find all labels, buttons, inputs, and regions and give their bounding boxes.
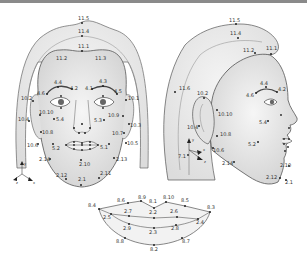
- frontal-label-10-3: 10.3: [130, 122, 141, 128]
- profile-label-7-1: 7.1: [178, 153, 186, 159]
- frontal-label-10-6: 10.6: [27, 142, 38, 148]
- frontal-label-10-4: 10.4: [18, 116, 29, 122]
- mouth-label-2-2: 2.2: [149, 209, 157, 215]
- svg-text:z: z: [204, 160, 206, 164]
- profile-label-11-4: 11.4: [230, 30, 241, 36]
- mouth-label-2-9: 2.9: [123, 225, 131, 231]
- profile-label-11-5: 11.5: [229, 17, 240, 23]
- frontal-label-11-1: 11.1: [78, 43, 89, 49]
- frontal-right-eye: [94, 98, 114, 107]
- mouth-label-8-5: 8.5: [181, 197, 189, 203]
- frontal-label-10-2: 10.2: [21, 95, 32, 101]
- svg-text:x: x: [203, 148, 205, 152]
- frontal-label-2-10: 2.10: [79, 161, 90, 167]
- frontal-label-2-13: 2.13: [116, 156, 127, 162]
- frontal-label-10-8: 10.8: [42, 129, 53, 135]
- profile-label-2-14: 2.14: [222, 160, 233, 166]
- profile-view: 11.5 11.4 11.2 11.1 11.6 10.2 10.10 4.4 …: [164, 17, 297, 185]
- frontal-label-10-10: 10.10: [39, 109, 53, 115]
- mouth-detail: 8.4 8.6 8.9 8.1 8.10 8.5 8.3 2.7 2.2 2.6…: [88, 194, 215, 252]
- profile-label-10-10: 10.10: [218, 111, 232, 117]
- svg-text:z: z: [16, 181, 18, 185]
- profile-label-2-10: 2.10: [280, 162, 291, 168]
- profile-label-5-2: 5.2: [248, 141, 256, 147]
- profile-label-5-4: 5.4: [259, 119, 267, 125]
- frontal-label-4-6: 4.6: [37, 90, 45, 96]
- frontal-label-10-7: 10.7: [112, 130, 123, 136]
- frontal-label-10-5: 10.5: [127, 140, 138, 146]
- frontal-label-5-3: 5.3: [94, 117, 102, 123]
- svg-text:x: x: [33, 181, 35, 185]
- profile-label-11-6: 11.6: [179, 85, 190, 91]
- svg-text:y: y: [192, 138, 194, 142]
- frontal-label-4-1: 4.1: [85, 85, 93, 91]
- frontal-label-4-5: 4.5: [114, 88, 122, 94]
- frontal-label-2-14: 2.14: [39, 156, 50, 162]
- profile-label-10-2: 10.2: [197, 90, 208, 96]
- mouth-label-8-6: 8.6: [117, 197, 125, 203]
- mouth-label-8-4: 8.4: [88, 202, 96, 208]
- mouth-label-2-8: 2.8: [171, 225, 179, 231]
- frontal-label-5-1: 5.1: [100, 144, 108, 150]
- profile-label-10-6: 10.6: [213, 147, 224, 153]
- svg-text:y: y: [24, 162, 26, 166]
- mouth-label-2-3: 2.3: [149, 229, 157, 235]
- mouth-label-2-7: 2.7: [124, 208, 132, 214]
- frontal-label-5-4: 5.4: [56, 116, 64, 122]
- facial-feature-points-diagram: 11.5 11.4 11.1 11.2 11.3 4.4 4.2 4.1 4.3…: [0, 0, 307, 261]
- profile-label-4-2: 4.2: [278, 86, 286, 92]
- mouth-label-8-1: 8.1: [149, 198, 157, 204]
- profile-label-10-8: 10.8: [220, 131, 231, 137]
- mouth-label-8-2: 8.2: [150, 246, 158, 252]
- profile-label-10-4: 10.4: [187, 124, 198, 130]
- frontal-view: 11.5 11.4 11.1 11.2 11.3 4.4 4.2 4.1 4.3…: [13, 15, 148, 187]
- mouth-label-2-4: 2.4: [196, 219, 204, 225]
- frontal-label-11-5: 11.5: [78, 15, 89, 21]
- mouth-label-8-8: 8.8: [116, 238, 124, 244]
- frontal-label-4-4: 4.4: [54, 79, 62, 85]
- mouth-label-8-7: 8.7: [182, 238, 190, 244]
- frontal-label-5-2: 5.2: [52, 145, 60, 151]
- frontal-label-11-3: 11.3: [95, 55, 106, 61]
- profile-label-4-6: 4.6: [246, 92, 254, 98]
- frontal-axes-icon: y x z: [13, 161, 35, 185]
- frontal-label-11-2: 11.2: [56, 55, 67, 61]
- frontal-label-4-3: 4.3: [99, 78, 107, 84]
- mouth-label-2-5: 2.5: [103, 214, 111, 220]
- mouth-label-8-10: 8.10: [163, 194, 174, 200]
- frontal-label-2-1: 2.1: [78, 176, 86, 182]
- mouth-label-2-6: 2.6: [170, 208, 178, 214]
- frontal-label-2-12: 2.12: [56, 172, 67, 178]
- profile-label-11-1: 11.1: [266, 45, 277, 51]
- frontal-label-10-1: 10.1: [128, 95, 139, 101]
- frontal-label-10-9: 10.9: [108, 112, 119, 118]
- profile-label-2-1: 2.1: [285, 179, 293, 185]
- mouth-label-8-9: 8.9: [138, 194, 146, 200]
- frontal-label-2-11: 2.11: [100, 170, 111, 176]
- profile-label-4-4: 4.4: [260, 80, 268, 86]
- profile-label-11-2: 11.2: [243, 47, 254, 53]
- frontal-label-11-4: 11.4: [78, 28, 89, 34]
- mouth-label-8-3: 8.3: [207, 204, 215, 210]
- profile-label-2-12: 2.12: [266, 174, 277, 180]
- frontal-label-4-2: 4.2: [70, 85, 78, 91]
